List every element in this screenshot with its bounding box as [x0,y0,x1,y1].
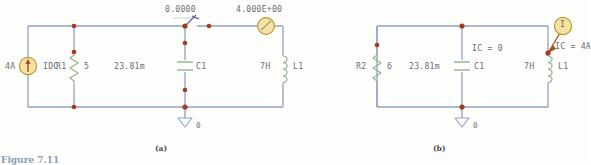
inductor-ic-label: IC = 4A [555,42,591,50]
source-reading-a: 4.000E+00 [236,5,282,13]
capacitor-c1-value: 23.81m [114,62,145,70]
inductor-l1b-value: 7H [524,62,534,70]
capacitor-c1b-name: C1 [474,62,484,70]
resistor-r1-name: R1 [56,62,66,70]
circuit-a-wires [28,26,283,118]
capacitor-c1-symbol[interactable] [177,62,193,70]
capacitor-c1b-symbol[interactable] [454,62,470,70]
inductor-l1-name: L1 [293,62,303,70]
capacitor-c1b-value: 23.81m [409,62,440,70]
ground-symbol-b [455,118,469,127]
inductor-l1b-symbol[interactable] [548,53,552,85]
resistor-r2-name: R2 [356,62,366,70]
resistor-r1-value: 5 [84,62,89,70]
current-source-idc[interactable] [19,57,36,74]
resistor-r2-value: 6 [387,62,392,70]
figure-caption: Figure 7.11 [1,155,59,165]
resistor-r1-symbol[interactable] [70,52,78,84]
circuit-b-wires [377,26,548,118]
circuit-a-group [19,15,287,127]
ammeter-gauge-a[interactable] [258,18,275,35]
inductor-l1-value: 7H [260,62,270,70]
inductor-l1-symbol[interactable] [283,53,287,85]
subcaption-a: (a) [155,144,167,153]
meter-reading-a: 0.0000 [165,5,196,13]
ground-label-b: 0 [473,122,478,130]
subcaption-b: (b) [433,144,446,153]
capacitor-c1-name: C1 [196,62,206,70]
ground-label-a: 0 [196,122,201,130]
marker-glyph: I [560,21,565,29]
capacitor-ic-label: IC = 0 [472,44,503,52]
ground-symbol-a [178,118,192,127]
current-source-value: 4A [5,62,15,70]
inductor-l1b-name: L1 [558,62,568,70]
circuit-b-group [373,17,572,127]
